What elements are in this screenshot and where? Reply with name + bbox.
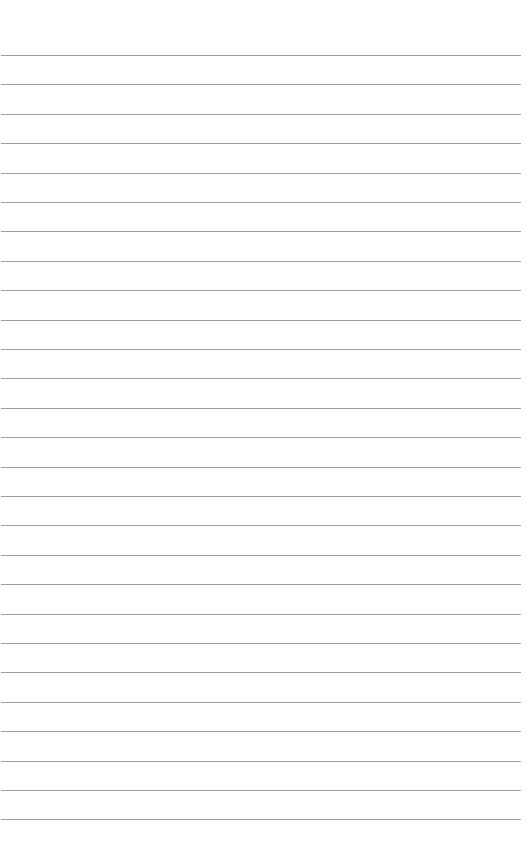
ruled-line [1, 202, 521, 203]
ruled-line [1, 84, 521, 85]
ruled-line [1, 643, 521, 644]
ruled-line [1, 702, 521, 703]
ruled-line [1, 761, 521, 762]
ruled-line [1, 349, 521, 350]
ruled-line [1, 525, 521, 526]
ruled-line [1, 819, 521, 820]
ruled-line [1, 467, 521, 468]
ruled-line [1, 290, 521, 291]
ruled-line [1, 437, 521, 438]
ruled-line [1, 114, 521, 115]
ruled-line [1, 261, 521, 262]
ruled-line [1, 55, 521, 56]
ruled-line [1, 143, 521, 144]
ruled-line [1, 496, 521, 497]
ruled-line [1, 408, 521, 409]
ruled-line [1, 731, 521, 732]
ruled-line [1, 555, 521, 556]
ruled-line [1, 378, 521, 379]
lined-paper-page [0, 0, 529, 867]
ruled-line [1, 173, 521, 174]
ruled-line [1, 790, 521, 791]
ruled-line [1, 231, 521, 232]
ruled-line [1, 320, 521, 321]
ruled-line [1, 672, 521, 673]
ruled-line [1, 614, 521, 615]
ruled-line [1, 584, 521, 585]
